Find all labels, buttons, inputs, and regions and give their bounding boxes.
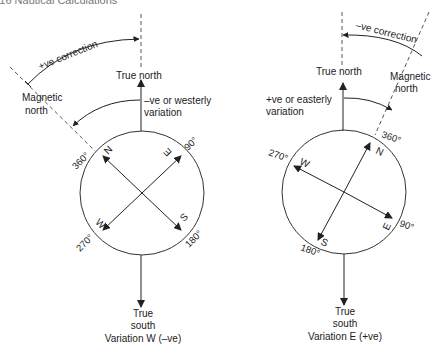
true-south-label-line2: south bbox=[333, 318, 357, 329]
cardinal-n-label: N bbox=[102, 144, 115, 157]
true-south-label-line1: True bbox=[335, 306, 356, 317]
westerly-variation-label-line2: variation bbox=[144, 107, 182, 118]
cardinal-s-label: S bbox=[178, 211, 191, 224]
degree-270-label: 270° bbox=[267, 147, 289, 164]
cardinal-n-label: N bbox=[374, 145, 385, 158]
compass-n-arrow-icon bbox=[103, 156, 142, 193]
easterly-variation-label-line1: +ve or easterly bbox=[266, 94, 332, 105]
westerly-variation-arc-icon bbox=[73, 100, 140, 126]
cardinal-s-label: S bbox=[319, 236, 330, 249]
compass-s-arrow-icon bbox=[318, 192, 344, 240]
compass-e-arrow-icon bbox=[142, 156, 181, 193]
right-compass-diagram: N E S W 360° 90° 180° 270° –ve correctio… bbox=[266, 12, 431, 342]
true-north-label: True north bbox=[316, 66, 362, 77]
degree-360-label: 360° bbox=[380, 129, 402, 146]
degree-360-label: 360° bbox=[70, 150, 92, 172]
degree-90-label: 90° bbox=[182, 134, 200, 152]
easterly-variation-arc-icon bbox=[344, 98, 392, 110]
cardinal-w-label: W bbox=[93, 216, 108, 231]
positive-correction-label: +ve correction bbox=[37, 38, 100, 72]
degree-180-label: 180° bbox=[183, 228, 205, 250]
negative-correction-label: –ve correction bbox=[355, 19, 419, 45]
cardinal-e-label: E bbox=[161, 146, 174, 159]
magnetic-north-dashed-line bbox=[10, 67, 95, 151]
variation-west-caption: Variation W (–ve) bbox=[105, 333, 182, 344]
left-compass-diagram: N E S W 360° 90° 180° 270° +ve correctio… bbox=[10, 14, 211, 344]
easterly-variation-label-line2: variation bbox=[266, 106, 304, 117]
compass-w-arrow-icon bbox=[103, 193, 142, 230]
westerly-variation-label-line1: –ve or westerly bbox=[144, 95, 211, 106]
compass-s-arrow-icon bbox=[142, 193, 181, 230]
magnetic-north-label-line1: Magnetic bbox=[22, 92, 63, 103]
degree-180-label: 180° bbox=[299, 242, 321, 259]
true-south-label-line1: True bbox=[133, 308, 154, 319]
degree-270-label: 270° bbox=[74, 232, 96, 254]
magnetic-north-label-line2: north bbox=[395, 83, 418, 94]
degree-90-label: 90° bbox=[398, 218, 415, 233]
compass-e-arrow-icon bbox=[344, 192, 392, 218]
page-header: 116 Nautical Calculations bbox=[0, 0, 118, 6]
true-south-label-line2: south bbox=[131, 320, 155, 331]
magnetic-north-label-line2: north bbox=[25, 105, 48, 116]
cardinal-e-label: E bbox=[380, 221, 393, 232]
variation-diagram: 116 Nautical Calculations N E S W 360° 9… bbox=[0, 0, 441, 352]
variation-east-caption: Variation E (+ve) bbox=[308, 331, 382, 342]
true-north-label: True north bbox=[116, 70, 162, 81]
cardinal-w-label: W bbox=[298, 156, 312, 170]
compass-n-arrow-icon bbox=[344, 143, 370, 192]
compass-w-arrow-icon bbox=[294, 166, 344, 192]
magnetic-north-label-line1: Magnetic bbox=[390, 71, 431, 82]
